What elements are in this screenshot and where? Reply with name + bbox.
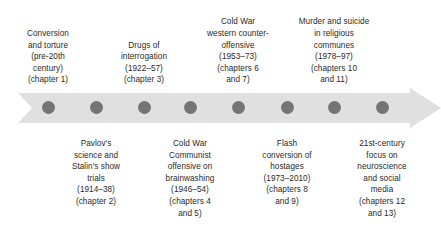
milestone-dot <box>90 101 103 114</box>
milestone-dot <box>138 101 151 114</box>
milestone-label: Cold War western counter- offensive (195… <box>183 16 293 86</box>
milestone-dot <box>232 101 245 114</box>
timeline-figure: Conversion and torture (pre-20th century… <box>0 0 441 233</box>
timeline-arrow <box>0 88 441 128</box>
milestone-label: 21st-century focus on neuroscience and s… <box>327 138 437 219</box>
milestone-label: Murder and suicide in religious communes… <box>279 16 389 86</box>
milestone-dot <box>376 101 389 114</box>
milestone-dot <box>184 101 197 114</box>
milestone-label: Cold War Communist offensive on brainwas… <box>135 138 245 219</box>
milestone-label: Conversion and torture (pre-20th century… <box>0 28 103 86</box>
milestone-label: Flash conversion of hostages (1973–2010)… <box>232 138 342 208</box>
milestone-dot <box>328 101 341 114</box>
milestone-dot <box>42 101 55 114</box>
milestone-dot <box>281 101 294 114</box>
